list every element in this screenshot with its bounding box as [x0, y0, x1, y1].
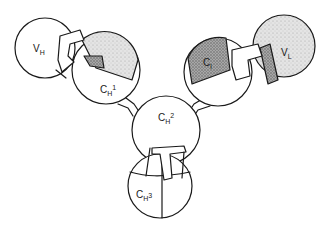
antibody-domain-diagram: VH CH1 Cl VL CH2 CH3 — [0, 0, 325, 231]
